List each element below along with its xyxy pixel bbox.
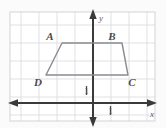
vertex-label-c: C [128,76,136,88]
coordinate-grid-figure: A B C D y x 1 1 [0,0,166,128]
vertex-label-b: B [107,30,115,42]
figure-screenshot: A B C D y x 1 1 [0,0,166,128]
y-axis-label: y [98,13,103,23]
x-unit-label: 1 [108,106,113,116]
grid-plate [10,12,155,121]
vertex-label-d: D [33,76,42,88]
y-unit-label: 1 [84,86,89,96]
x-axis-label: x [149,109,154,119]
vertex-label-a: A [45,30,53,42]
